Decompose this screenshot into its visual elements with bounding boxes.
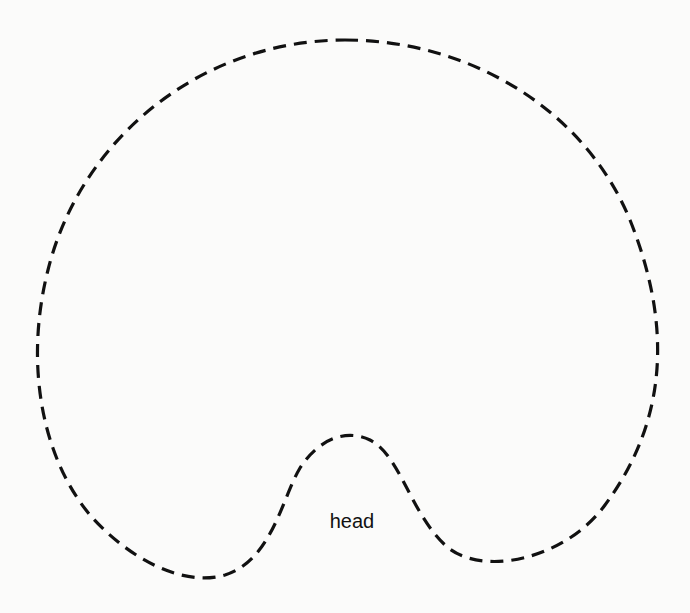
- dashed-outline: [37, 40, 657, 578]
- head-label: head: [330, 510, 375, 533]
